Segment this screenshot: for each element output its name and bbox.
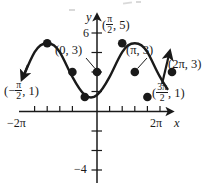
point-mid-neg-half-pi	[68, 68, 77, 77]
x-tick-label-neg-2pi: −2π	[7, 117, 26, 129]
point-min-left	[81, 93, 90, 102]
point-pi	[131, 68, 140, 77]
label-point-three-half-pi: (3π2, 1)	[152, 82, 185, 103]
label-point-neg-half-pi: (−π2, 1)	[4, 80, 39, 101]
label-open: (−	[4, 84, 15, 98]
label-tail: , 1)	[168, 86, 185, 100]
point-three-half-pi	[143, 93, 152, 102]
point-zero	[93, 68, 102, 77]
leader-zero	[86, 58, 95, 69]
y-tick-label-neg4: −4	[74, 163, 87, 175]
leader-pi	[138, 58, 148, 69]
label-point-pi: (π, 3)	[126, 44, 153, 57]
y-tick-label-6: 6	[83, 27, 89, 39]
curve-left-arrow	[23, 65, 29, 78]
graph-figure: y x 6 −4 −2π 2π (−π2, 1) (0, 3) (π2, 5) …	[0, 0, 218, 187]
label-point-half-pi: (π2, 5)	[102, 14, 130, 35]
point-max-left	[43, 39, 52, 48]
y-axis-label: y	[86, 11, 92, 24]
label-point-zero: (0, 3)	[55, 44, 82, 57]
label-tail: , 5)	[113, 18, 130, 32]
x-axis	[19, 106, 172, 112]
fraction-three-half-pi: 3π2	[156, 82, 168, 103]
label-point-two-pi: (2π, 3)	[168, 58, 201, 71]
x-tick-label-2pi: 2π	[150, 117, 162, 129]
x-axis-label: x	[174, 117, 180, 130]
y-axis	[92, 15, 103, 183]
label-tail: , 1)	[22, 84, 39, 98]
